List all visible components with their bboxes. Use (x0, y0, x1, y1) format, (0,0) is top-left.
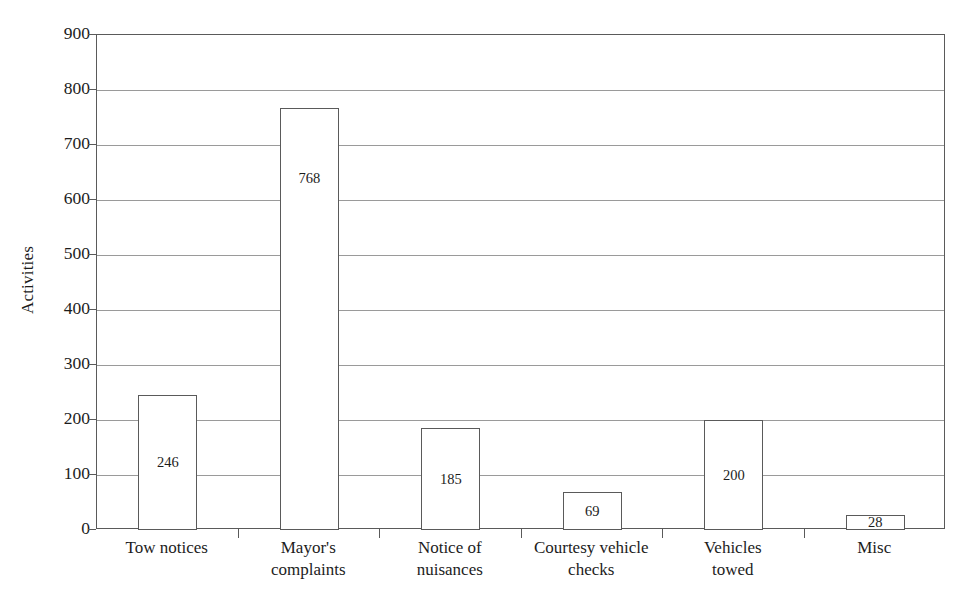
bar-value-label: 185 (440, 472, 462, 487)
y-axis-tick-label: 600 (40, 190, 90, 208)
x-axis-category-label-line1: Misc (857, 538, 891, 557)
y-axis-tick-label: 200 (40, 410, 90, 428)
x-axis-category-label: Vehiclestowed (704, 537, 762, 581)
y-axis-tick-mark (88, 89, 96, 90)
gridline (97, 145, 944, 146)
y-axis-tick-label: 500 (40, 245, 90, 263)
bar-value-label: 200 (723, 468, 745, 483)
x-axis-category-label: Notice ofnuisances (417, 537, 483, 581)
gridline (97, 255, 944, 256)
x-axis-category-label-line2: complaints (271, 559, 346, 581)
bar-value-label: 28 (868, 515, 883, 530)
y-axis-tick-mark (88, 474, 96, 475)
y-axis-tick-label: 0 (40, 520, 90, 538)
x-axis-category-label-line2: towed (704, 559, 762, 581)
gridline (97, 200, 944, 201)
bar-chart-figure: Activities 9008007006005004003002001000 … (0, 0, 968, 599)
x-axis-category-label-line1: Courtesy vehicle (534, 538, 649, 557)
x-axis-category-label: Courtesy vehiclechecks (534, 537, 649, 581)
y-axis-tick-mark (88, 419, 96, 420)
y-axis-tick-label: 400 (40, 300, 90, 318)
y-axis-tick-mark (88, 309, 96, 310)
y-axis-tick-mark (88, 364, 96, 365)
gridline (97, 420, 944, 421)
y-axis-tick-label: 300 (40, 355, 90, 373)
x-axis-category-label-line1: Notice of (418, 538, 482, 557)
x-axis-category-label: Tow notices (126, 537, 208, 559)
x-axis-category-label: Mayor'scomplaints (271, 537, 346, 581)
x-axis-category-tick (238, 529, 239, 538)
bar-value-label: 69 (585, 504, 600, 519)
x-axis-category-label-line2: checks (534, 559, 649, 581)
y-axis-tick-mark (88, 34, 96, 35)
y-axis-tick-labels: 9008007006005004003002001000 (40, 34, 90, 529)
x-axis-category-label: Misc (857, 537, 891, 559)
y-axis-title-text: Activities (18, 246, 38, 314)
y-axis-tick-mark (88, 144, 96, 145)
y-axis-tick-label: 700 (40, 135, 90, 153)
plot-area: 2467681856920028 (96, 34, 945, 529)
y-axis-tick-label: 800 (40, 80, 90, 98)
bar-value-label: 768 (298, 170, 320, 185)
y-axis-tick-mark (88, 529, 96, 530)
x-axis-category-tick (379, 529, 380, 538)
y-axis-tick-mark (88, 199, 96, 200)
x-axis-category-tick (662, 529, 663, 538)
x-axis-category-tick (804, 529, 805, 538)
x-axis-category-label-line1: Vehicles (704, 538, 762, 557)
x-axis-category-label-line1: Tow notices (126, 538, 208, 557)
gridline (97, 365, 944, 366)
y-axis-tick-label: 900 (40, 25, 90, 43)
x-axis-category-label-line2: nuisances (417, 559, 483, 581)
x-axis-category-labels: Tow noticesMayor'scomplaintsNotice ofnui… (96, 537, 945, 593)
gridline (97, 310, 944, 311)
y-axis-tick-label: 100 (40, 465, 90, 483)
x-axis-category-tick (521, 529, 522, 538)
x-axis-category-label-line1: Mayor's (281, 538, 336, 557)
gridline (97, 475, 944, 476)
y-axis-tick-mark (88, 254, 96, 255)
bar-value-label: 246 (157, 455, 179, 470)
gridline (97, 90, 944, 91)
